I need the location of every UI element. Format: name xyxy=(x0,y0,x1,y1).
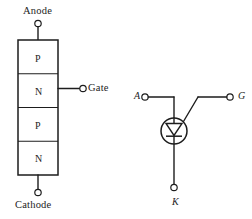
symbol-anode-terminal-circle xyxy=(142,94,148,100)
symbol-cathode-label: K xyxy=(172,197,179,207)
structure-diagram-graphics xyxy=(18,20,86,195)
symbol-anode-label: A xyxy=(134,91,140,101)
layer-label-n2: N xyxy=(35,154,42,164)
symbol-diagram-graphics xyxy=(142,94,233,191)
figure-artwork xyxy=(0,0,252,219)
symbol-cathode-terminal-circle xyxy=(171,184,177,190)
gate-terminal-circle xyxy=(80,85,86,91)
cathode-terminal-circle xyxy=(35,189,41,195)
layer-label-p2: P xyxy=(35,121,41,131)
symbol-gate-label: G xyxy=(238,91,245,101)
anode-label: Anode xyxy=(23,6,52,17)
layer-label-n1: N xyxy=(35,87,42,97)
thyristor-figure: Anode Cathode Gate P N P N A G K xyxy=(0,0,252,219)
layer-label-p1: P xyxy=(35,54,41,64)
symbol-gate-terminal-circle xyxy=(227,94,233,100)
gate-label: Gate xyxy=(88,83,109,94)
anode-terminal-circle xyxy=(35,20,41,26)
cathode-label: Cathode xyxy=(15,200,51,211)
